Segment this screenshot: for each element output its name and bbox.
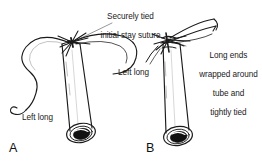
caption-left-long-upper: Left long <box>118 68 149 78</box>
caption-long-ends-line3: tube and <box>213 89 244 98</box>
caption-long-ends-line2: wrapped around <box>199 70 257 79</box>
caption-long-ends: Long ends wrapped around tube and tightl… <box>186 41 262 127</box>
caption-left-long-lower: Left long <box>22 113 53 123</box>
caption-long-ends-line1: Long ends <box>210 51 248 60</box>
caption-stay-suture: Securely tied initial stay suture <box>78 2 174 50</box>
caption-stay-suture-line2: initial stay suture <box>100 31 160 40</box>
panel-label-a: A <box>9 142 17 155</box>
caption-long-ends-line4: tightly tied <box>210 108 246 117</box>
surgical-figure: Securely tied initial stay suture Long e… <box>0 0 262 167</box>
panel-label-b: B <box>146 142 154 155</box>
caption-stay-suture-line1: Securely tied <box>107 12 154 21</box>
